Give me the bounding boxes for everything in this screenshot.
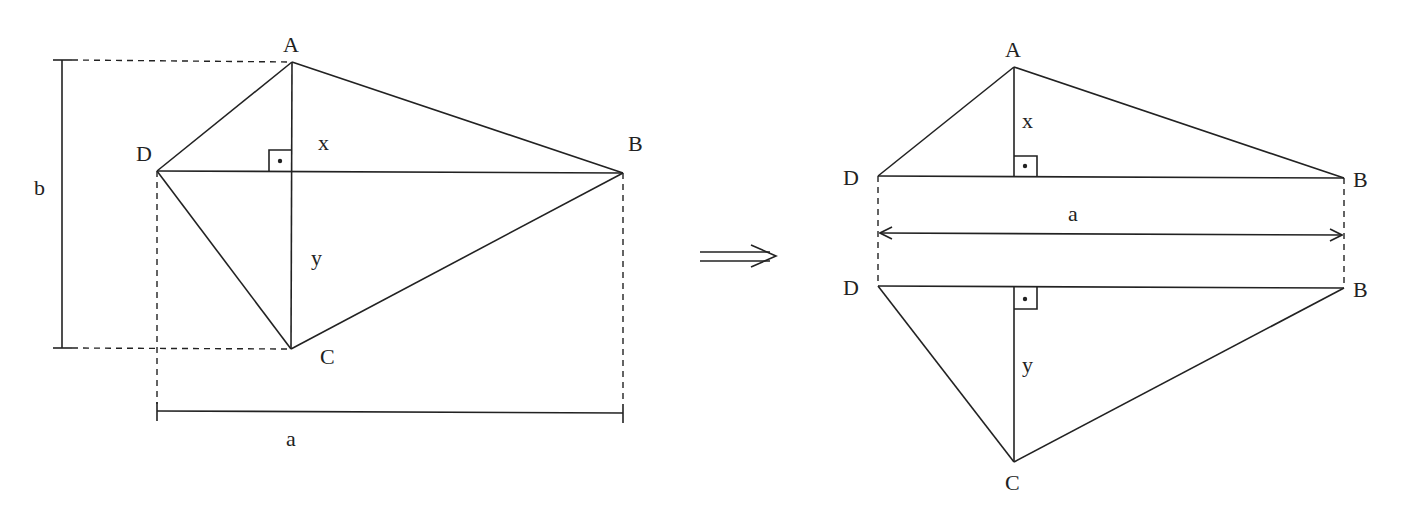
vertex-d-bottom-right: D: [843, 275, 859, 300]
vertex-b-left: B: [628, 131, 643, 156]
triangle-dbc: [878, 286, 1344, 462]
height-x-right: x: [1022, 108, 1033, 133]
vertex-c-right: C: [1005, 470, 1020, 495]
segment-y-left: y: [311, 245, 322, 270]
kite-area-diagram: b a A B D C x y: [0, 0, 1416, 521]
vertex-a-right: A: [1005, 37, 1021, 62]
right-angle-dot: [278, 159, 282, 163]
edge-ab: [292, 62, 623, 173]
height-y-right: y: [1022, 352, 1033, 377]
implies-arrow-icon: [700, 245, 776, 267]
edge-bc: [291, 173, 623, 349]
label-a-right: a: [1068, 201, 1078, 226]
vertex-d-left: D: [136, 141, 152, 166]
diagonal-db: [157, 171, 623, 173]
width-a: a: [878, 176, 1344, 288]
vertex-a-left: A: [283, 32, 299, 57]
dimension-a: a: [157, 171, 623, 451]
diagonal-ac: [291, 62, 292, 349]
kite-abcd: [157, 62, 623, 349]
vertex-c-left: C: [320, 344, 335, 369]
label-a-left: a: [286, 426, 296, 451]
vertex-b-bottom-right: B: [1353, 277, 1368, 302]
triangle-adb: [878, 67, 1344, 178]
vertex-d-top-right: D: [843, 165, 859, 190]
vertex-b-top-right: B: [1353, 167, 1368, 192]
left-figure: b a A B D C x y: [34, 32, 643, 451]
edge-da: [157, 62, 292, 171]
right-figure: a A D B x D B y C: [843, 37, 1368, 495]
edge-cd: [157, 171, 291, 349]
segment-x-left: x: [318, 130, 329, 155]
label-b: b: [34, 175, 45, 200]
dimension-b: b: [34, 60, 292, 349]
